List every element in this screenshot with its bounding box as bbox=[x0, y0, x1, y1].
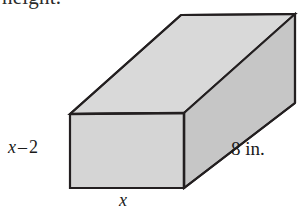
rectangular-prism-drawing bbox=[0, 0, 304, 210]
label-height-variable: x bbox=[8, 137, 16, 157]
prism-top-back-edge bbox=[181, 14, 295, 15]
label-width-x: x bbox=[119, 191, 127, 209]
label-height-x-minus-2: x–2 bbox=[8, 138, 38, 156]
minus-sign-icon: – bbox=[16, 137, 29, 157]
label-depth-8-in: 8 in. bbox=[231, 139, 265, 158]
prism-front-top-edge bbox=[70, 113, 184, 114]
prism-front-face bbox=[70, 113, 184, 188]
label-height-value: 2 bbox=[29, 137, 38, 157]
math-figure-container: height. x–2 x 8 in. bbox=[0, 0, 304, 210]
cutoff-text-height: height. bbox=[2, 0, 61, 8]
